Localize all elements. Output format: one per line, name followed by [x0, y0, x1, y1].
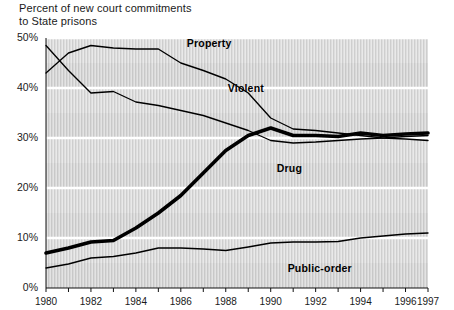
- y-tick-50: 50%: [4, 31, 38, 43]
- x-tick-1990: 1990: [254, 296, 288, 307]
- x-tick-1994: 1994: [344, 296, 378, 307]
- series-label-public-order: Public-order: [288, 262, 352, 274]
- x-tick-1997: 1997: [411, 296, 445, 307]
- x-tick-1980: 1980: [29, 296, 63, 307]
- x-tick-1986: 1986: [164, 296, 198, 307]
- y-tick-10: 10%: [4, 231, 38, 243]
- chart-figure: Percent of new court commitments to Stat…: [0, 0, 454, 310]
- y-tick-40: 40%: [4, 81, 38, 93]
- series-label-violent: Violent: [228, 82, 264, 94]
- x-tick-1984: 1984: [119, 296, 153, 307]
- y-tick-0: 0%: [4, 281, 38, 293]
- x-tick-1988: 1988: [209, 296, 243, 307]
- series-label-property: Property: [187, 37, 232, 49]
- x-tick-1982: 1982: [74, 296, 108, 307]
- y-tick-20: 20%: [4, 181, 38, 193]
- x-tick-1992: 1992: [299, 296, 333, 307]
- y-tick-30: 30%: [4, 131, 38, 143]
- series-label-drug: Drug: [277, 162, 302, 174]
